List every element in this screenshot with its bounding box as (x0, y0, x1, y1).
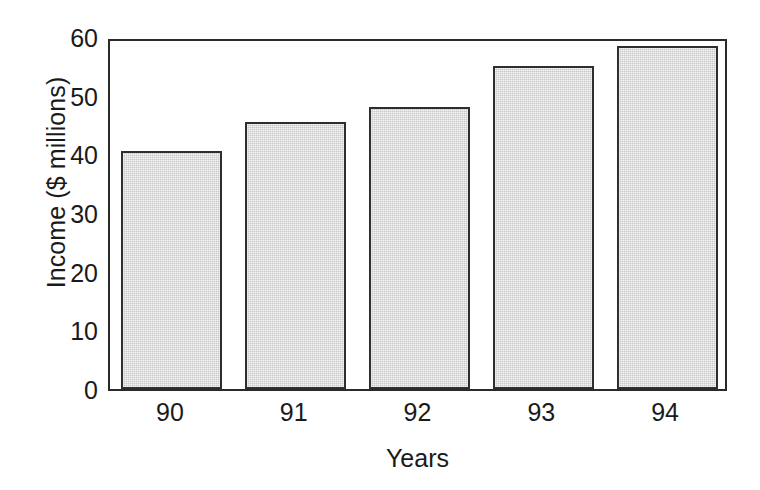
bar (617, 46, 718, 389)
y-tick-label: 30 (36, 202, 98, 227)
y-tick-label: 10 (36, 319, 98, 344)
x-axis-title: Years (108, 444, 727, 473)
bars-group (110, 41, 725, 389)
bar (121, 151, 222, 389)
x-tick-label: 93 (479, 400, 603, 425)
x-tick-label: 92 (356, 400, 480, 425)
bar-chart-figure: Income ($ millions) 0102030405060 909192… (0, 0, 760, 490)
x-tick-label: 94 (603, 400, 727, 425)
bar (369, 107, 470, 389)
bar (245, 122, 346, 389)
y-tick-label: 50 (36, 85, 98, 110)
x-tick-label: 90 (108, 400, 232, 425)
x-axis-tick-labels: 9091929394 (108, 400, 727, 434)
y-tick-label: 40 (36, 143, 98, 168)
bar (493, 66, 594, 389)
y-tick-label: 60 (36, 26, 98, 51)
x-tick-label: 91 (232, 400, 356, 425)
y-tick-label: 20 (36, 261, 98, 286)
y-axis-tick-labels: 0102030405060 (36, 0, 98, 490)
plot-area (108, 39, 727, 391)
y-tick-label: 0 (36, 378, 98, 403)
